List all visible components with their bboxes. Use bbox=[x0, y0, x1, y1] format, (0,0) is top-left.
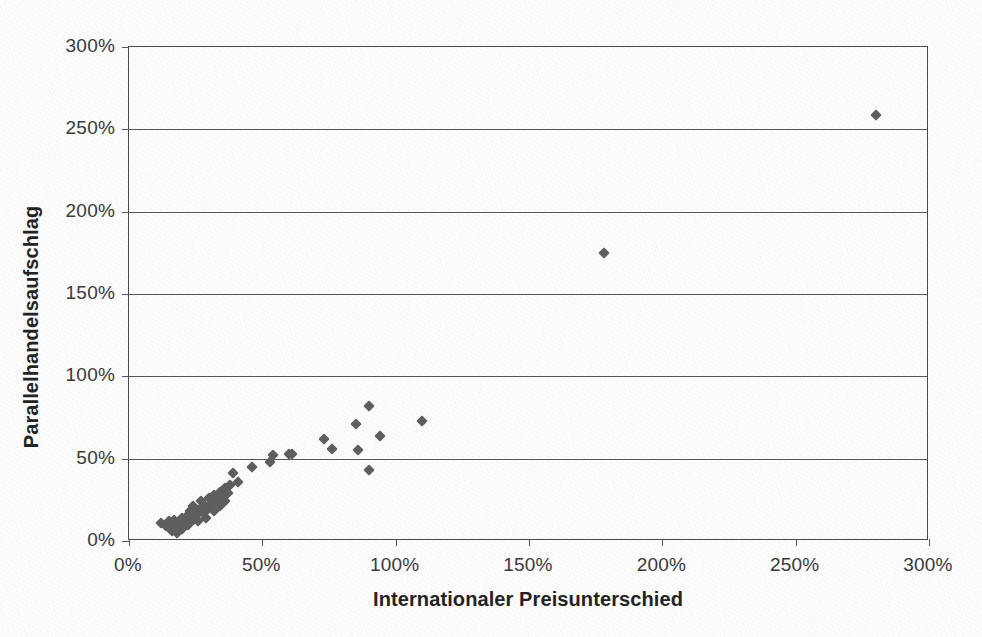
y-tick-label: 0% bbox=[87, 529, 115, 551]
data-point-marker bbox=[166, 525, 177, 536]
data-point-marker bbox=[174, 521, 185, 532]
gridline-horizontal bbox=[129, 459, 927, 460]
data-point-marker bbox=[166, 519, 177, 530]
y-tick-label: 200% bbox=[66, 200, 115, 222]
gridline-horizontal bbox=[129, 129, 927, 130]
y-tick-mark bbox=[122, 212, 129, 213]
plot-area bbox=[128, 46, 928, 540]
y-axis-title: Parallelhandelsaufschlag bbox=[14, 80, 48, 574]
data-point-marker bbox=[209, 489, 220, 500]
data-point-marker bbox=[233, 476, 244, 487]
x-tick-label: 0% bbox=[114, 554, 142, 576]
y-tick-label: 300% bbox=[66, 35, 115, 57]
data-point-marker bbox=[179, 516, 190, 527]
data-point-marker bbox=[163, 516, 174, 527]
data-point-marker bbox=[214, 486, 225, 497]
data-point-marker bbox=[187, 514, 198, 525]
data-point-marker bbox=[187, 501, 198, 512]
y-tick-label: 100% bbox=[66, 364, 115, 386]
y-tick-mark bbox=[122, 129, 129, 130]
x-tick-label: 150% bbox=[503, 554, 552, 576]
data-point-marker bbox=[195, 496, 206, 507]
x-tick-label: 250% bbox=[770, 554, 819, 576]
y-tick-mark bbox=[122, 376, 129, 377]
y-tick-label: 50% bbox=[76, 447, 115, 469]
gridline-horizontal bbox=[129, 294, 927, 295]
data-point-marker bbox=[177, 512, 188, 523]
data-point-marker bbox=[353, 445, 364, 456]
y-tick-label: 150% bbox=[66, 282, 115, 304]
data-point-marker bbox=[363, 465, 374, 476]
data-point-marker bbox=[182, 509, 193, 520]
data-point-marker bbox=[190, 511, 201, 522]
x-tick-mark bbox=[662, 539, 663, 546]
y-tick-mark bbox=[122, 47, 129, 48]
data-point-marker bbox=[198, 507, 209, 518]
data-point-marker bbox=[417, 415, 428, 426]
data-point-marker bbox=[182, 519, 193, 530]
data-point-marker bbox=[214, 501, 225, 512]
x-tick-mark bbox=[396, 539, 397, 546]
data-point-marker bbox=[201, 512, 212, 523]
x-tick-label: 100% bbox=[370, 554, 419, 576]
data-point-marker bbox=[161, 521, 172, 532]
data-point-marker bbox=[169, 522, 180, 533]
data-point-marker bbox=[374, 430, 385, 441]
scatter-chart-figure: Parallelhandelsaufschlag 0%50%100%150%20… bbox=[0, 0, 982, 637]
x-tick-mark bbox=[262, 539, 263, 546]
x-tick-label: 300% bbox=[903, 554, 952, 576]
data-point-marker bbox=[219, 483, 230, 494]
data-point-marker bbox=[350, 418, 361, 429]
data-point-marker bbox=[177, 524, 188, 535]
data-point-marker bbox=[227, 468, 238, 479]
x-tick-mark bbox=[929, 539, 930, 546]
data-point-marker bbox=[193, 516, 204, 527]
data-point-marker bbox=[171, 527, 182, 538]
x-tick-label: 200% bbox=[637, 554, 686, 576]
x-tick-mark bbox=[796, 539, 797, 546]
data-point-marker bbox=[222, 488, 233, 499]
data-point-marker bbox=[217, 491, 228, 502]
x-tick-mark bbox=[129, 539, 130, 546]
x-axis-title: Internationaler Preisunterschied bbox=[128, 588, 928, 611]
data-point-marker bbox=[318, 433, 329, 444]
data-point-marker bbox=[209, 506, 220, 517]
data-point-marker bbox=[246, 461, 257, 472]
data-point-marker bbox=[203, 502, 214, 513]
data-point-marker bbox=[169, 514, 180, 525]
data-point-marker bbox=[870, 109, 881, 120]
y-tick-mark bbox=[122, 459, 129, 460]
x-tick-label: 50% bbox=[242, 554, 281, 576]
data-point-marker bbox=[598, 247, 609, 258]
data-point-marker bbox=[326, 443, 337, 454]
data-point-marker bbox=[363, 400, 374, 411]
y-tick-label: 250% bbox=[66, 117, 115, 139]
data-point-marker bbox=[225, 479, 236, 490]
gridline-horizontal bbox=[129, 376, 927, 377]
data-point-marker bbox=[206, 497, 217, 508]
data-point-marker bbox=[155, 517, 166, 528]
data-point-marker bbox=[211, 494, 222, 505]
data-point-marker bbox=[198, 499, 209, 510]
y-tick-mark bbox=[122, 541, 129, 542]
data-point-marker bbox=[219, 496, 230, 507]
data-point-marker bbox=[193, 504, 204, 515]
gridline-horizontal bbox=[129, 212, 927, 213]
data-point-marker bbox=[171, 517, 182, 528]
data-point-marker bbox=[185, 506, 196, 517]
data-point-marker bbox=[203, 493, 214, 504]
y-tick-mark bbox=[122, 294, 129, 295]
x-tick-mark bbox=[529, 539, 530, 546]
data-points bbox=[129, 47, 927, 539]
